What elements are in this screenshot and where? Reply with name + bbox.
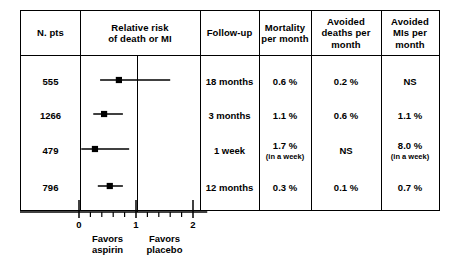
cell-avoided-mis: 8.0 % (in a week) xyxy=(381,133,439,167)
cell-follow-up-value: 1 week xyxy=(214,145,245,156)
header-avoided-deaths: Avoided deaths per month xyxy=(311,11,381,55)
header-avoided-mis-line3: month xyxy=(395,39,425,50)
cell-avoided-deaths: 0.6 % xyxy=(311,101,381,129)
cell-avoided-deaths-value: 0.2 % xyxy=(334,76,358,87)
cell-avoided-mis: 0.7 % xyxy=(381,173,439,201)
axis-tick-label-2: 2 xyxy=(183,219,203,230)
favors-placebo-caption: Favorsplacebo xyxy=(130,233,200,255)
cell-avoided-mis-value: NS xyxy=(403,76,416,87)
cell-avoided-mis-value: 8.0 % xyxy=(398,140,422,151)
header-mortality-label: Mortality per month xyxy=(261,22,308,45)
cell-n-pts: 479 xyxy=(43,145,59,156)
cell-avoided-deaths: 0.1 % xyxy=(311,173,381,201)
header-mortality-line2: per month xyxy=(261,33,308,44)
cell-avoided-mis-value: 1.1 % xyxy=(398,110,422,121)
header-follow-up: Follow-up xyxy=(200,11,259,55)
cell-avoided-mis-note: (in a week) xyxy=(391,152,429,161)
table-row: 479 xyxy=(21,136,80,164)
header-avoided-mis-label: Avoided MIs per month xyxy=(391,16,429,51)
cell-mortality: 0.6 % xyxy=(259,67,311,95)
forest-plot-figure: N. pts Relative risk of death or MI Foll… xyxy=(0,0,452,273)
cell-follow-up: 1 week xyxy=(200,136,259,164)
header-follow-up-label: Follow-up xyxy=(207,27,253,39)
cell-avoided-mis: 1.1 % xyxy=(381,101,439,129)
header-avoided-deaths-line1: Avoided xyxy=(327,16,365,27)
header-relative-risk-line2: of death or MI xyxy=(108,33,172,44)
cell-n-pts: 555 xyxy=(43,76,59,87)
header-avoided-mis-line2: MIs per xyxy=(393,27,427,38)
cell-avoided-deaths-value: NS xyxy=(339,145,352,156)
cell-n-pts: 796 xyxy=(43,182,59,193)
header-avoided-deaths-label: Avoided deaths per month xyxy=(321,16,370,51)
cell-follow-up-value: 12 months xyxy=(206,182,254,193)
cell-avoided-mis-value: 0.7 % xyxy=(398,182,422,193)
header-mortality-line1: Mortality xyxy=(265,22,306,33)
cell-mortality-value: 0.3 % xyxy=(273,182,297,193)
axis-tick-label-0: 0 xyxy=(69,219,89,230)
table-row: 796 xyxy=(21,173,80,201)
header-avoided-mis-line1: Avoided xyxy=(391,16,429,27)
results-table: N. pts Relative risk of death or MI Foll… xyxy=(20,10,440,211)
header-avoided-mis: Avoided MIs per month xyxy=(381,11,439,55)
cell-mortality-value: 1.7 % xyxy=(273,140,297,151)
header-relative-risk: Relative risk of death or MI xyxy=(80,11,200,55)
cell-follow-up-value: 3 months xyxy=(208,110,250,121)
cell-follow-up-value: 18 months xyxy=(206,76,254,87)
header-rule xyxy=(21,55,439,56)
cell-avoided-deaths: NS xyxy=(311,136,381,164)
table-row: 1266 xyxy=(21,101,80,129)
header-avoided-deaths-line3: month xyxy=(331,39,361,50)
header-avoided-deaths-line2: deaths per xyxy=(321,27,370,38)
cell-n-pts: 1266 xyxy=(40,110,61,121)
header-relative-risk-label: Relative risk of death or MI xyxy=(108,22,172,45)
cell-follow-up: 3 months xyxy=(200,101,259,129)
header-n-pts-label: N. pts xyxy=(37,27,64,39)
cell-avoided-deaths-value: 0.1 % xyxy=(334,182,358,193)
cell-mortality-value: 0.6 % xyxy=(273,76,297,87)
cell-mortality-note: (in a week) xyxy=(266,152,304,161)
cell-avoided-deaths-value: 0.6 % xyxy=(334,110,358,121)
cell-follow-up: 12 months xyxy=(200,173,259,201)
cell-mortality-value: 1.1 % xyxy=(273,110,297,121)
header-relative-risk-line1: Relative risk xyxy=(111,22,168,33)
cell-mortality: 1.1 % xyxy=(259,101,311,129)
header-mortality: Mortality per month xyxy=(259,11,311,55)
favors-placebo-caption-line1: Favors xyxy=(130,233,200,244)
cell-avoided-deaths: 0.2 % xyxy=(311,67,381,95)
table-row: 555 xyxy=(21,67,80,95)
cell-mortality: 0.3 % xyxy=(259,173,311,201)
cell-avoided-mis: NS xyxy=(381,67,439,95)
cell-mortality: 1.7 % (in a week) xyxy=(259,133,311,167)
axis-tick-label-1: 1 xyxy=(126,219,146,230)
reference-line-divider xyxy=(137,55,138,212)
favors-placebo-caption-line2: placebo xyxy=(130,244,200,255)
cell-follow-up: 18 months xyxy=(200,67,259,95)
header-n-pts: N. pts xyxy=(21,11,80,55)
